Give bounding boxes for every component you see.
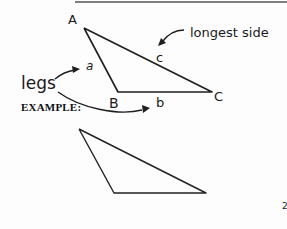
worksheet-page: A B C a c b longest side legs 2 EXAMPLE: xyxy=(0,0,287,229)
side-c-label: c xyxy=(156,50,163,65)
vertex-b-label: B xyxy=(109,95,119,111)
vertex-c-label: C xyxy=(214,89,223,104)
longest-side-arrow xyxy=(162,30,184,42)
side-b-label: b xyxy=(156,95,164,110)
longest-side-label: longest side xyxy=(190,25,269,40)
legs-arrow-to-b-head-icon xyxy=(142,105,150,113)
side-a-label: a xyxy=(86,59,93,73)
vertex-a-label: A xyxy=(68,12,77,27)
example-label: EXAMPLE: xyxy=(21,101,81,113)
page-mark: 2 xyxy=(282,201,287,211)
legs-label: legs xyxy=(21,73,56,93)
legs-arrow-to-a xyxy=(55,70,75,79)
example-triangle xyxy=(79,129,206,193)
diagram-canvas: A B C a c b longest side legs 2 xyxy=(0,0,287,229)
legs-arrow-to-a-head-icon xyxy=(72,66,80,73)
